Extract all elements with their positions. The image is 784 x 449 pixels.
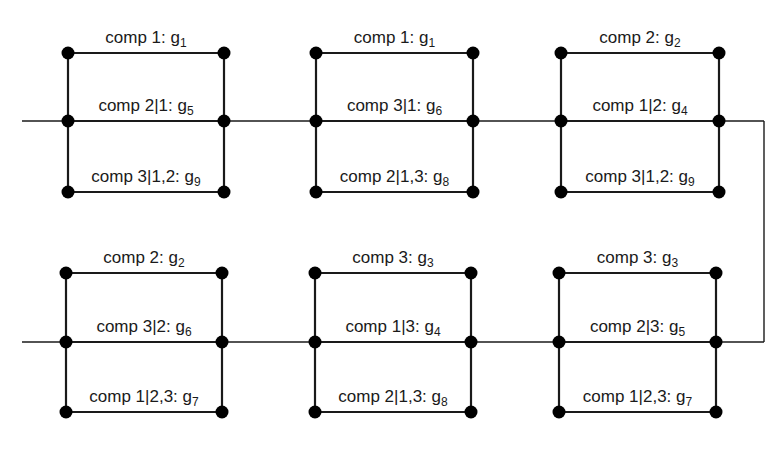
diagram-svg: comp 1: g1comp 2|1: g5comp 3|1,2: g9comp… — [0, 0, 784, 449]
edge-label-subscript: 1 — [180, 36, 187, 50]
edge-label-subscript: 6 — [185, 325, 192, 339]
node-dot — [465, 267, 478, 280]
node-dot — [60, 267, 73, 280]
edge-label: comp 3|1: g6 — [347, 96, 443, 118]
parallel-block: comp 1: g1comp 3|1: g6comp 2|1,3: g8 — [310, 28, 480, 199]
parallel-block: comp 2: g2comp 1|2: g4comp 3|1,2: g9 — [555, 28, 726, 199]
node-dot — [553, 267, 566, 280]
edge-label-subscript: 7 — [686, 395, 693, 409]
edge-label: comp 1|2,3: g7 — [89, 387, 199, 409]
node-dot — [467, 186, 480, 199]
node-dot — [310, 115, 323, 128]
node-dot — [555, 115, 568, 128]
node-dot — [309, 406, 322, 419]
parallel-block: comp 1: g1comp 2|1: g5comp 3|1,2: g9 — [62, 28, 231, 199]
edge-label-subscript: 9 — [194, 175, 201, 189]
node-dot — [62, 186, 75, 199]
node-dot — [216, 406, 229, 419]
edge-label-subscript: 4 — [434, 325, 441, 339]
node-dot — [62, 47, 75, 60]
edge-label-subscript: 7 — [192, 395, 199, 409]
edge-label: comp 1|2,3: g7 — [583, 387, 693, 409]
edge-label: comp 1|2: g4 — [592, 96, 688, 118]
edge-label-subscript: 1 — [428, 36, 435, 50]
edge-label-subscript: 8 — [441, 395, 448, 409]
node-dot — [60, 406, 73, 419]
edge-label: comp 1|3: g4 — [345, 317, 441, 339]
edge-label: comp 2|1,3: g8 — [338, 387, 448, 409]
node-dot — [62, 115, 75, 128]
node-dot — [710, 267, 723, 280]
node-dot — [60, 336, 73, 349]
edge-label-subscript: 3 — [671, 256, 678, 270]
node-dot — [216, 267, 229, 280]
node-dot — [553, 336, 566, 349]
edge-label: comp 3: g3 — [352, 248, 434, 270]
connector-lines — [22, 121, 764, 342]
edge-label: comp 3|1,2: g9 — [585, 167, 695, 189]
edge-label: comp 3: g3 — [597, 248, 679, 270]
edge-label: comp 2: g2 — [599, 28, 681, 50]
node-dot — [713, 186, 726, 199]
edge-label-subscript: 2 — [674, 36, 681, 50]
edge-label: comp 1: g1 — [105, 28, 187, 50]
edge-label: comp 2|1,3: g8 — [340, 167, 450, 189]
edge-label: comp 2: g2 — [103, 248, 185, 270]
edge-label-subscript: 6 — [435, 104, 442, 118]
edge-label-subscript: 3 — [427, 256, 434, 270]
node-dot — [465, 406, 478, 419]
node-dot — [467, 47, 480, 60]
blocks-layer: comp 1: g1comp 2|1: g5comp 3|1,2: g9comp… — [60, 28, 726, 419]
edge-label: comp 1: g1 — [354, 28, 436, 50]
node-dot — [309, 336, 322, 349]
node-dot — [710, 336, 723, 349]
edge-label-subscript: 9 — [688, 175, 695, 189]
edge-label-subscript: 5 — [678, 325, 685, 339]
node-dot — [465, 336, 478, 349]
node-dot — [216, 336, 229, 349]
edge-label: comp 3|1,2: g9 — [91, 167, 201, 189]
parallel-block: comp 2: g2comp 3|2: g6comp 1|2,3: g7 — [60, 248, 229, 419]
node-dot — [310, 186, 323, 199]
node-dot — [555, 47, 568, 60]
diagram-canvas: comp 1: g1comp 2|1: g5comp 3|1,2: g9comp… — [0, 0, 784, 449]
node-dot — [218, 47, 231, 60]
node-dot — [310, 47, 323, 60]
node-dot — [555, 186, 568, 199]
edge-label-subscript: 4 — [681, 104, 688, 118]
parallel-block: comp 3: g3comp 2|3: g5comp 1|2,3: g7 — [553, 248, 723, 419]
node-dot — [309, 267, 322, 280]
node-dot — [553, 406, 566, 419]
node-dot — [218, 115, 231, 128]
node-dot — [713, 47, 726, 60]
node-dot — [467, 115, 480, 128]
edge-label: comp 2|1: g5 — [98, 96, 194, 118]
edge-label-subscript: 5 — [187, 104, 194, 118]
edge-label: comp 2|3: g5 — [590, 317, 686, 339]
edge-label-subscript: 2 — [178, 256, 185, 270]
node-dot — [713, 115, 726, 128]
node-dot — [218, 186, 231, 199]
edge-label-subscript: 8 — [443, 175, 450, 189]
parallel-block: comp 3: g3comp 1|3: g4comp 2|1,3: g8 — [309, 248, 478, 419]
edge-label: comp 3|2: g6 — [96, 317, 192, 339]
node-dot — [710, 406, 723, 419]
